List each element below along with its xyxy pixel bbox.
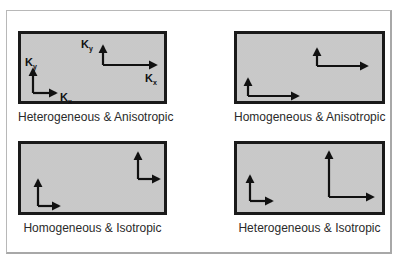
panel-heterogeneous-isotropic xyxy=(234,141,385,215)
caption-heterogeneous-isotropic: Heterogeneous & Isotropic xyxy=(234,221,385,235)
permeability-axes-icon xyxy=(18,141,167,215)
panel-homogeneous-isotropic xyxy=(18,141,167,215)
permeability-axes-icon xyxy=(234,141,385,215)
panel-homogeneous-anisotropic xyxy=(234,31,385,104)
caption-homogeneous-isotropic: Homogeneous & Isotropic xyxy=(18,221,167,235)
ky-label: Ky xyxy=(25,56,37,71)
caption-homogeneous-anisotropic: Homogeneous & Anisotropic xyxy=(234,110,385,124)
kx-label: Kx xyxy=(145,72,157,86)
permeability-axes-icon xyxy=(234,31,385,104)
caption-heterogeneous-anisotropic: Heterogeneous & Anisotropic xyxy=(18,110,167,124)
panel-heterogeneous-anisotropic: Ky Kx Ky Kx xyxy=(18,31,167,104)
ky-label: Ky xyxy=(81,38,93,53)
permeability-axes-icon: Ky Kx Ky Kx xyxy=(18,31,167,104)
kx-label: Kx xyxy=(60,91,72,105)
